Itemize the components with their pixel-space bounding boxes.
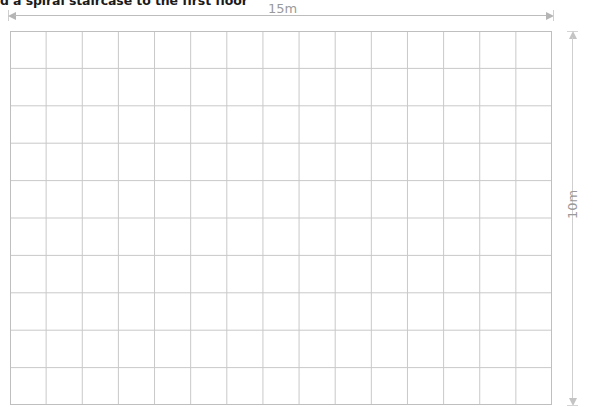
height-dimension-cap-bottom xyxy=(567,405,578,406)
width-dimension-label: 15m xyxy=(268,1,297,16)
width-dimension-cap-right xyxy=(553,10,554,21)
page-heading: d a spiral staircase to the first floor xyxy=(0,0,420,11)
height-dimension-label: 10m xyxy=(565,185,580,225)
plan-grid-svg xyxy=(10,31,552,405)
floor-plan-page: d a spiral staircase to the first floor … xyxy=(0,0,593,416)
plan-grid[interactable] xyxy=(10,31,552,405)
